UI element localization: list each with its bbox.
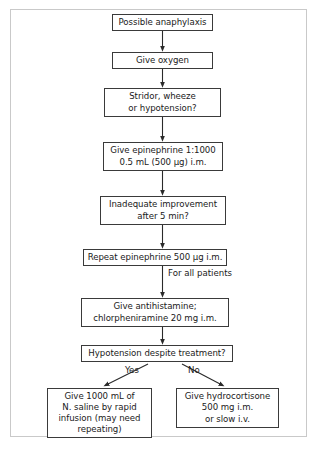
node-give-oxygen: Give oxygen — [112, 52, 213, 69]
node-text: repeating) — [77, 424, 121, 435]
edge-label-for-all-patients: For all patients — [168, 268, 232, 278]
node-text: Give epinephrine 1:1000 — [110, 145, 215, 156]
flowchart-canvas: Possible anaphylaxis Give oxygen Stridor… — [0, 0, 319, 449]
node-text: 500 mg i.m. — [202, 402, 253, 413]
node-text: Possible anaphylaxis — [119, 17, 207, 28]
node-text: Give oxygen — [136, 55, 189, 66]
node-possible-anaphylaxis: Possible anaphylaxis — [112, 14, 213, 31]
edge-label-no: No — [188, 365, 200, 375]
node-give-hydrocortisone: Give hydrocortisone 500 mg i.m. or slow … — [176, 388, 279, 428]
node-give-saline: Give 1000 mL of N. saline by rapid infus… — [47, 388, 152, 438]
node-text: or hypotension? — [128, 103, 196, 114]
node-text: chlorpheniramine 20 mg i.m. — [93, 313, 217, 324]
node-give-antihistamine: Give antihistamine; chlorpheniramine 20 … — [81, 298, 229, 327]
node-text: infusion (may need — [59, 413, 141, 424]
node-give-epinephrine: Give epinephrine 1:1000 0.5 mL (500 µg) … — [103, 142, 223, 171]
node-text: or slow i.v. — [205, 414, 250, 425]
node-text: Give antihistamine; — [113, 301, 196, 312]
node-text: Repeat epinephrine 500 µg i.m. — [88, 252, 223, 263]
node-text: Give hydrocortisone — [185, 391, 271, 402]
node-text: 0.5 mL (500 µg) i.m. — [119, 157, 206, 168]
edge-label-yes: Yes — [125, 365, 139, 375]
node-hypotension-despite-treatment: Hypotension despite treatment? — [81, 345, 233, 362]
node-text: N. saline by rapid — [62, 402, 136, 413]
node-repeat-epinephrine: Repeat epinephrine 500 µg i.m. — [83, 249, 227, 266]
node-text: Stridor, wheeze — [129, 91, 196, 102]
node-inadequate-improvement: Inadequate improvement after 5 min? — [100, 196, 226, 225]
node-text: after 5 min? — [137, 211, 188, 222]
node-stridor-wheeze: Stridor, wheeze or hypotension? — [104, 88, 221, 117]
node-text: Inadequate improvement — [109, 199, 217, 210]
node-text: Give 1000 mL of — [64, 391, 134, 402]
node-text: Hypotension despite treatment? — [88, 348, 225, 359]
